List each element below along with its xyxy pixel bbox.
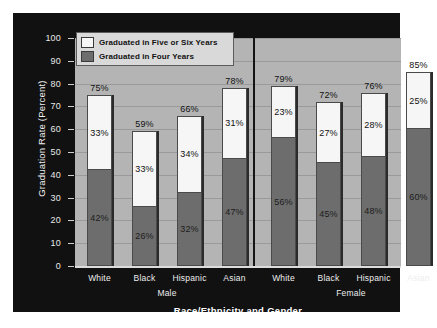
y-axis-tick-label: 30	[31, 194, 61, 203]
bar-segment-four-years[interactable]: 56%	[271, 138, 296, 266]
legend-swatch-five-or-six-years	[81, 37, 94, 48]
bar-segment-label: 48%	[364, 206, 383, 216]
y-axis-tick	[68, 129, 74, 130]
x-axis-group-label: Female	[311, 288, 391, 298]
bar-segment-label: 27%	[319, 128, 338, 138]
bar-segment-five-or-six-years[interactable]: 34%	[177, 116, 202, 194]
plot-area: 33%42%75%33%26%59%34%32%66%31%47%78%23%5…	[75, 38, 401, 266]
bar-segment-label: 25%	[409, 96, 428, 106]
bar-segment-four-years[interactable]: 32%	[177, 193, 202, 266]
y-axis-tick	[68, 220, 74, 221]
bar-total-label: 85%	[398, 60, 437, 70]
bar-segment-label: 33%	[135, 164, 154, 174]
bar-segment-four-years[interactable]: 48%	[361, 157, 386, 266]
x-axis-tick-label: Asian	[209, 273, 261, 283]
bar-total-label: 72%	[308, 90, 349, 100]
y-axis-tick	[68, 106, 74, 107]
bar-segment-label: 33%	[90, 128, 109, 138]
bar-segment-four-years[interactable]: 60%	[406, 129, 431, 266]
y-axis-tick	[68, 38, 74, 39]
bar-segment-label: 45%	[319, 209, 338, 219]
y-axis-tick	[68, 243, 74, 244]
x-axis-tick-label: Asian	[393, 273, 437, 283]
stacked-bar[interactable]: 31%47%	[222, 88, 247, 266]
bar-segment-label: 32%	[180, 224, 199, 234]
bar-total-label: 76%	[353, 81, 394, 91]
legend-item: Graduated in Four Years	[81, 50, 229, 63]
bar-total-label: 66%	[169, 104, 210, 114]
bar-total-label: 59%	[124, 119, 165, 129]
bar-segment-four-years[interactable]: 45%	[316, 163, 341, 266]
legend-label-four-years: Graduated in Four Years	[99, 52, 194, 61]
y-axis-tick	[68, 198, 74, 199]
chart-panel: Graduation Rate (Percent) 01020304050607…	[13, 13, 400, 312]
stacked-bar[interactable]: 25%60%	[406, 72, 431, 266]
bar-segment-five-or-six-years[interactable]: 27%	[316, 102, 341, 164]
bar-total-label: 79%	[263, 74, 304, 84]
bar-segment-label: 56%	[274, 197, 293, 207]
stacked-bar[interactable]: 27%45%	[316, 102, 341, 266]
group-divider	[253, 38, 255, 266]
y-axis-tick	[68, 61, 74, 62]
bar-segment-five-or-six-years[interactable]: 33%	[87, 95, 112, 170]
bar-segment-five-or-six-years[interactable]: 23%	[271, 86, 296, 138]
bar-segment-label: 31%	[225, 118, 244, 128]
bar-segment-label: 28%	[364, 120, 383, 130]
y-axis-tick-label: 40	[31, 171, 61, 180]
y-axis-tick-label: 50	[31, 148, 61, 157]
bar-total-label: 78%	[214, 76, 255, 86]
bar-segment-five-or-six-years[interactable]: 31%	[222, 88, 247, 159]
bar-total-label: 75%	[79, 83, 120, 93]
y-axis-tick-label: 100	[31, 34, 61, 43]
y-axis-tick-label: 10	[31, 239, 61, 248]
bar-segment-five-or-six-years[interactable]: 28%	[361, 93, 386, 157]
bar-segment-label: 42%	[90, 213, 109, 223]
y-axis-tick-label: 90	[31, 57, 61, 66]
y-axis-tick-label: 60	[31, 125, 61, 134]
stacked-bar[interactable]: 34%32%	[177, 116, 202, 266]
bar-segment-label: 34%	[180, 149, 199, 159]
y-axis-tick	[68, 266, 74, 267]
stacked-bar[interactable]: 28%48%	[361, 93, 386, 266]
bar-segment-label: 60%	[409, 192, 428, 202]
chart-legend: Graduated in Five or Six Years Graduated…	[76, 32, 234, 66]
bar-segment-five-or-six-years[interactable]: 33%	[132, 131, 157, 206]
legend-swatch-four-years	[81, 51, 94, 62]
x-axis-title: Race/Ethnicity and Gender	[75, 305, 401, 316]
y-axis-tick	[68, 175, 74, 176]
bar-segment-label: 47%	[225, 207, 244, 217]
y-axis-tick-label: 80	[31, 80, 61, 89]
bar-segment-five-or-six-years[interactable]: 25%	[406, 72, 431, 129]
stacked-bar[interactable]: 33%26%	[132, 131, 157, 266]
legend-label-five-or-six-years: Graduated in Five or Six Years	[99, 38, 217, 47]
y-axis-tick-label: 20	[31, 216, 61, 225]
y-axis-tick-label: 0	[31, 262, 61, 271]
bar-segment-label: 26%	[135, 231, 154, 241]
bar-segment-label: 23%	[274, 107, 293, 117]
stacked-bar[interactable]: 33%42%	[87, 95, 112, 266]
legend-item: Graduated in Five or Six Years	[81, 36, 229, 49]
x-axis-line	[75, 266, 401, 268]
y-axis-tick	[68, 84, 74, 85]
x-axis-group-label: Male	[127, 288, 207, 298]
stacked-bar[interactable]: 23%56%	[271, 86, 296, 266]
bar-segment-four-years[interactable]: 42%	[87, 170, 112, 266]
y-axis-tick	[68, 152, 74, 153]
bar-segment-four-years[interactable]: 26%	[132, 207, 157, 266]
y-axis-tick-label: 70	[31, 102, 61, 111]
bar-segment-four-years[interactable]: 47%	[222, 159, 247, 266]
